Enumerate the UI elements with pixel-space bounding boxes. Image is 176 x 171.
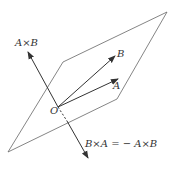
label-bxa: B×A = − A×B xyxy=(85,139,157,149)
vector-axb-arrow xyxy=(28,52,58,107)
vector-b-arrow xyxy=(58,56,115,107)
vector-bxa-dashed-segment xyxy=(58,107,67,121)
label-a: A xyxy=(113,81,120,91)
plane-parallelogram xyxy=(8,12,167,152)
label-origin: O xyxy=(50,106,58,116)
label-axb: A×B xyxy=(15,38,38,48)
label-b: B xyxy=(117,49,124,59)
